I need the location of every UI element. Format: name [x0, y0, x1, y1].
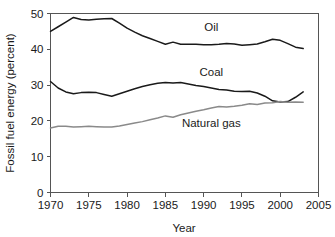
- y-tick-label: 40: [31, 43, 44, 55]
- series-line-oil: [51, 17, 304, 48]
- y-tick-label: 20: [31, 115, 44, 127]
- series-label-coal: Coal: [199, 66, 223, 78]
- x-tick-label: 1975: [76, 199, 102, 211]
- x-tick-label: 1990: [191, 199, 217, 211]
- y-tick-label: 50: [31, 8, 44, 20]
- x-axis-title: Year: [172, 222, 195, 234]
- x-tick-label: 1970: [38, 199, 64, 211]
- series-label-oil: Oil: [204, 21, 218, 33]
- x-tick-label: 2005: [306, 199, 332, 211]
- fossil-fuel-energy-line-chart: 01020304050 1970197519801985199019952000…: [0, 0, 335, 237]
- y-tick-label: 10: [31, 151, 44, 163]
- series-line-coal: [51, 82, 304, 102]
- y-axis-title: Fossil fuel energy (percent): [4, 33, 16, 173]
- data-series-lines: [51, 17, 304, 128]
- x-tick-label: 1985: [153, 199, 179, 211]
- x-tick-label: 1995: [229, 199, 255, 211]
- y-axis-ticks: 01020304050: [31, 8, 51, 199]
- y-tick-label: 30: [31, 79, 44, 91]
- chart-container: 01020304050 1970197519801985199019952000…: [0, 0, 335, 237]
- series-label-natural-gas: Natural gas: [182, 117, 241, 129]
- y-tick-label: 0: [37, 187, 43, 199]
- x-tick-label: 2000: [267, 199, 293, 211]
- series-line-natural-gas: [51, 102, 304, 128]
- x-axis-ticks: 19701975198019851990199520002005: [38, 193, 332, 211]
- x-tick-label: 1980: [114, 199, 140, 211]
